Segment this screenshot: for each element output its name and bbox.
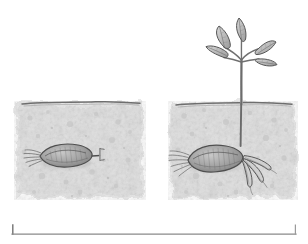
figure-root: Dormant seed below soil surface Germinat…: [0, 0, 308, 244]
leaf: [217, 26, 231, 49]
figure-illustration: [0, 0, 308, 244]
shoot: [206, 18, 277, 104]
leaf: [256, 59, 277, 66]
panel-right: [168, 18, 298, 200]
panel-left: [14, 101, 146, 200]
leaf: [255, 41, 276, 55]
stem: [241, 60, 242, 104]
scale-bracket: [12, 225, 296, 234]
leaf: [237, 18, 246, 42]
